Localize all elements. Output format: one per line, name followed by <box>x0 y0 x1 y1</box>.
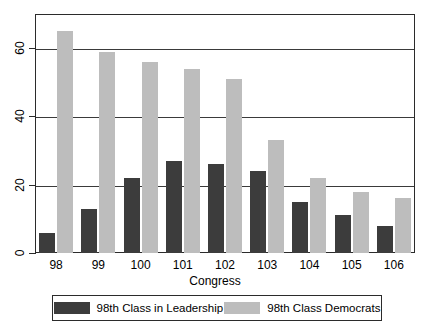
x-axis-title: Congress <box>0 274 430 288</box>
x-tick-label-106: 106 <box>373 258 415 273</box>
light-swatch-icon <box>224 302 260 314</box>
bar-102-series1 <box>208 164 224 253</box>
bar-99-series2 <box>99 52 115 253</box>
x-tick-label-102: 102 <box>204 258 246 273</box>
bar-104-series2 <box>310 178 326 253</box>
y-tick-label-0: 0 <box>13 241 27 265</box>
bar-98-series2 <box>57 31 73 253</box>
bar-106-series2 <box>395 198 411 253</box>
x-tick-label-101: 101 <box>162 258 204 273</box>
bar-chart: 0204060 9899100101102103104105106 Congre… <box>0 0 430 329</box>
bar-104-series1 <box>292 202 308 253</box>
bar-101-series2 <box>184 69 200 253</box>
dark-swatch-icon <box>54 302 90 314</box>
x-tick-label-100: 100 <box>119 258 161 273</box>
y-tick-label-60: 60 <box>13 36 27 60</box>
bar-98-series1 <box>39 233 55 253</box>
legend-item-democrats: 98th Class Democrats <box>224 302 380 314</box>
bar-100-series2 <box>142 62 158 253</box>
bar-99-series1 <box>81 209 97 253</box>
bar-106-series1 <box>377 226 393 253</box>
bar-105-series1 <box>335 215 351 253</box>
x-tick-label-99: 99 <box>77 258 119 273</box>
legend-label-democrats: 98th Class Democrats <box>267 302 380 314</box>
bars-layer <box>35 14 415 253</box>
x-tick-label-105: 105 <box>331 258 373 273</box>
x-tick-label-98: 98 <box>35 258 77 273</box>
bar-101-series1 <box>166 161 182 253</box>
y-tick-0 <box>29 253 36 254</box>
bar-103-series1 <box>250 171 266 253</box>
x-tick-label-104: 104 <box>288 258 330 273</box>
bar-105-series2 <box>353 192 369 253</box>
legend-label-leadership: 98th Class in Leadership <box>97 302 224 314</box>
bar-103-series2 <box>268 140 284 253</box>
y-tick-label-40: 40 <box>13 104 27 128</box>
bar-102-series2 <box>226 79 242 253</box>
legend-item-leadership: 98th Class in Leadership <box>54 302 224 314</box>
x-tick-label-103: 103 <box>246 258 288 273</box>
y-tick-label-20: 20 <box>13 173 27 197</box>
bar-100-series1 <box>124 178 140 253</box>
chart-legend: 98th Class in Leadership 98th Class Demo… <box>52 295 382 321</box>
